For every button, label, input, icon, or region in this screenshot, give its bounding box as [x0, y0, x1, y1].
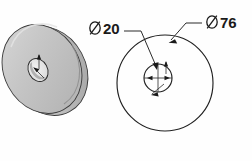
leader-line-inner	[124, 31, 156, 66]
hole-lower-pointer	[151, 84, 164, 97]
dimension-label-inner: 20	[90, 20, 120, 37]
isometric-view	[0, 11, 103, 130]
diameter-symbol-icon-inner	[90, 22, 100, 35]
dimension-label-outer: 76	[207, 14, 237, 31]
diameter-symbol-icon-outer	[207, 16, 217, 29]
leader-line-outer	[171, 23, 202, 40]
outer-diameter-value: 76	[220, 14, 237, 31]
drawing-sheet: 20 76	[0, 0, 252, 161]
dimension-leader-outer	[169, 23, 202, 43]
front-view	[117, 35, 213, 131]
drawing-canvas: 20 76	[0, 0, 252, 161]
inner-diameter-value: 20	[103, 20, 120, 37]
leader-arrowhead-outer	[169, 39, 178, 43]
outer-diameter-circle	[117, 35, 213, 131]
